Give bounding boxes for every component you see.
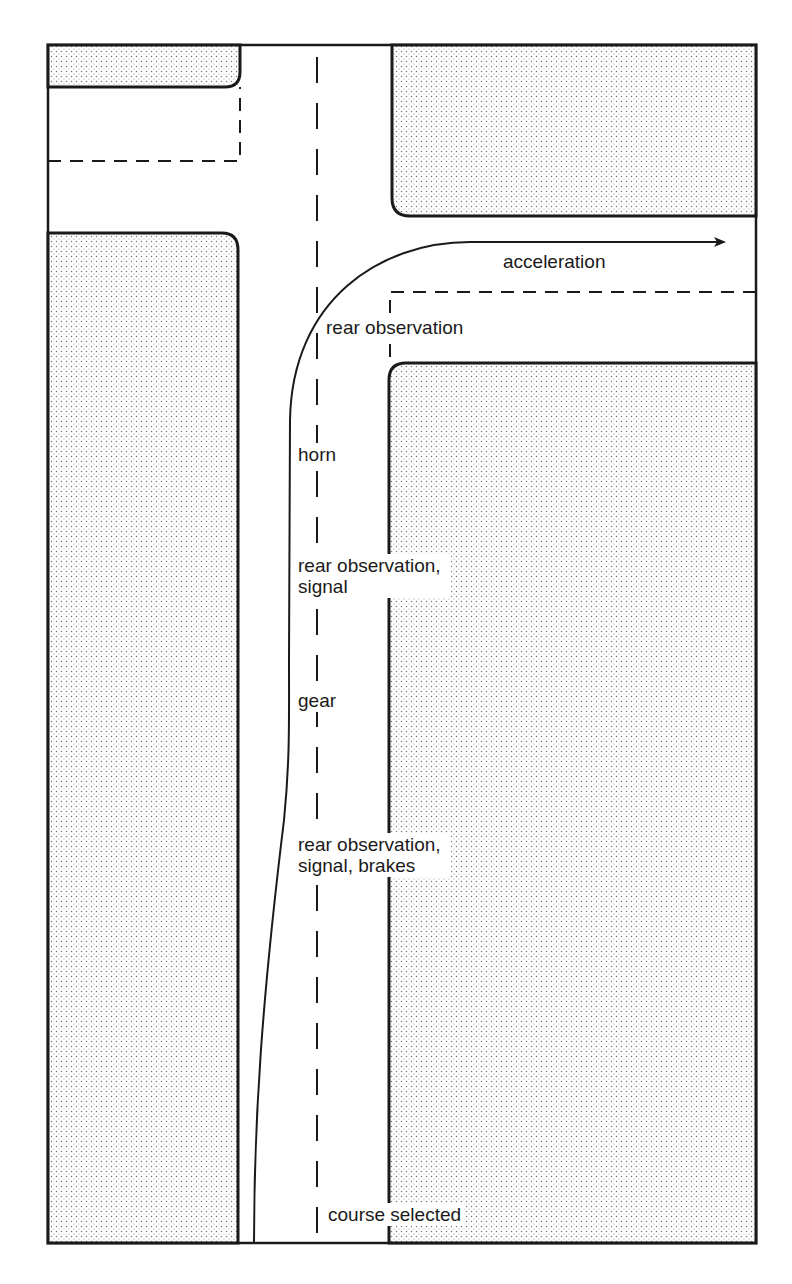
block-top-right: [392, 45, 756, 216]
label-rear-observation-top: rear observation: [323, 316, 466, 339]
road-map-drawing: [0, 0, 792, 1284]
label-gear: gear: [295, 689, 339, 712]
block-bottom-right: [389, 363, 756, 1243]
junction-diagram: acceleration rear observation horn rear …: [0, 0, 792, 1284]
block-bottom-left: [48, 233, 238, 1243]
block-top-left: [48, 45, 240, 87]
label-horn: horn: [295, 443, 339, 466]
label-rear-observation-signal-brakes: rear observation, signal, brakes: [295, 833, 451, 877]
label-course-selected: course selected: [325, 1203, 464, 1226]
label-rear-observation-signal: rear observation, signal: [295, 554, 451, 598]
label-acceleration: acceleration: [500, 250, 608, 273]
